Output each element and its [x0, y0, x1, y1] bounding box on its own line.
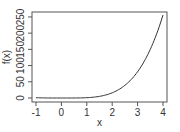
x-tick-label: 4 — [160, 107, 166, 118]
y-tick-label: 250 — [15, 8, 26, 25]
data-line — [36, 15, 163, 98]
x-tick-label: 0 — [59, 107, 65, 118]
x-axis-title: x — [97, 117, 102, 128]
y-axis: 050100150200250 — [15, 8, 32, 101]
x-tick-label: -1 — [32, 107, 41, 118]
y-tick-label: 200 — [15, 24, 26, 41]
x-tick-label: 2 — [109, 107, 115, 118]
y-tick-label: 0 — [15, 95, 26, 101]
y-tick-label: 50 — [15, 76, 26, 88]
x-axis: -101234 — [32, 102, 167, 118]
y-tick-label: 100 — [15, 57, 26, 74]
x-tick-label: 3 — [135, 107, 141, 118]
y-axis-title: f(x) — [1, 50, 12, 64]
x-tick-label: 1 — [84, 107, 90, 118]
y-tick-label: 150 — [15, 41, 26, 58]
chart: -101234 050100150200250 x f(x) — [0, 0, 180, 132]
